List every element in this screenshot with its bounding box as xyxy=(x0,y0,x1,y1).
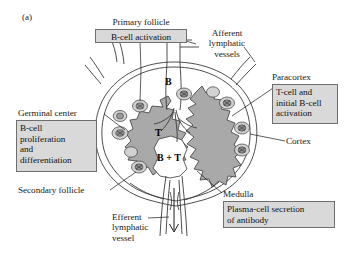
afferent-vessel-left-c xyxy=(90,57,104,78)
label-afferent-lymphatic-vessels: Afferent lymphatic vessels xyxy=(196,28,258,59)
zone-label-t: T xyxy=(155,127,162,138)
zone-label-b-plus-t: B + T xyxy=(157,152,181,163)
primary-follicle xyxy=(125,147,138,157)
secondary-follicle xyxy=(133,100,148,112)
leader-cortex xyxy=(250,134,285,141)
secondary-follicle xyxy=(112,127,128,140)
label-medulla: Medulla xyxy=(223,189,253,199)
afferent-vessel-right-a xyxy=(231,57,250,79)
hilum-trabecula-right xyxy=(180,63,181,110)
efferent-valve-left xyxy=(170,192,172,210)
secondary-follicle xyxy=(235,144,250,156)
afferent-vessel-right-b xyxy=(236,64,256,85)
label-paracortex: Paracortex xyxy=(272,72,344,82)
panel-tag: (a) xyxy=(22,12,32,22)
secondary-follicle xyxy=(177,88,192,100)
efferent-vessel-inner-right xyxy=(179,180,182,234)
primary-follicle xyxy=(207,87,220,97)
leader-primary-follicle xyxy=(140,41,141,101)
zone-label-b: B xyxy=(165,76,172,87)
germinal-center xyxy=(117,113,124,119)
label-germinal-center: Germinal center xyxy=(18,108,110,118)
secondary-follicle xyxy=(220,97,235,109)
label-efferent-lymphatic-vessel: Efferent lymphatic vessel xyxy=(112,212,172,243)
secondary-follicle xyxy=(235,122,250,134)
callout-b-cell-activation: B-cell activation xyxy=(95,29,187,43)
callout-plasma-cell-secretion: Plasma-cell secretion of antibody xyxy=(223,201,335,228)
label-cortex: Cortex xyxy=(286,136,311,146)
afferent-vessel-left-d xyxy=(85,65,101,84)
medullary-sinus-left xyxy=(130,183,164,199)
efferent-vessel-right-wall xyxy=(182,176,187,236)
lymph-node-figure: (a) Primary follicle B-cell activation A… xyxy=(0,0,348,268)
secondary-follicle xyxy=(113,111,127,122)
callout-t-and-b-activation: T-cell and initial B-cell activation xyxy=(272,84,338,124)
label-primary-follicle: Primary follicle xyxy=(95,17,187,27)
secondary-follicle xyxy=(132,161,147,173)
callout-b-cell-proliferation: B-cell proliferation and differentiation xyxy=(16,120,97,172)
label-secondary-follicle: Secondary follicle xyxy=(18,185,114,195)
leader-afferent-left xyxy=(186,41,196,44)
